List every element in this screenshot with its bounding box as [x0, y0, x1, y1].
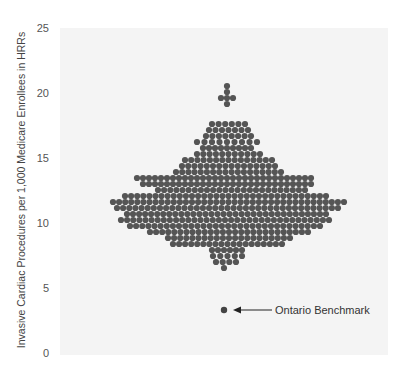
data-point	[116, 199, 122, 205]
data-point	[213, 151, 219, 157]
data-point	[248, 145, 254, 151]
data-point	[185, 169, 191, 175]
data-point	[232, 211, 238, 217]
data-point	[238, 127, 244, 133]
data-point	[220, 259, 226, 265]
data-point	[183, 235, 189, 241]
data-point	[317, 193, 323, 199]
data-point	[204, 163, 210, 169]
data-point	[253, 169, 259, 175]
data-point	[130, 217, 136, 223]
data-point	[216, 133, 222, 139]
data-point	[201, 193, 207, 199]
data-point	[158, 193, 164, 199]
data-point	[213, 223, 219, 229]
data-point	[225, 193, 231, 199]
data-point	[274, 223, 280, 229]
data-point	[305, 193, 311, 199]
data-point	[179, 187, 185, 193]
data-point	[286, 223, 292, 229]
data-point	[272, 169, 278, 175]
data-point	[247, 187, 253, 193]
data-point	[242, 181, 248, 187]
data-point	[157, 205, 163, 211]
data-point	[232, 229, 238, 235]
data-point	[216, 139, 222, 145]
data-point	[302, 175, 308, 181]
data-point	[278, 175, 284, 181]
data-point	[140, 175, 146, 181]
data-point	[335, 205, 341, 211]
data-point	[210, 187, 216, 193]
data-point	[189, 199, 195, 205]
data-point	[184, 211, 190, 217]
data-point	[240, 217, 246, 223]
data-point	[269, 235, 275, 241]
data-point	[278, 169, 284, 175]
data-point	[164, 175, 170, 181]
data-point	[238, 157, 244, 163]
data-point	[274, 205, 280, 211]
data-point	[233, 247, 239, 253]
data-point	[273, 241, 279, 247]
data-point	[238, 193, 244, 199]
data-point	[256, 193, 262, 199]
data-point	[259, 187, 265, 193]
data-point	[164, 223, 170, 229]
data-point	[263, 235, 269, 241]
data-point	[236, 145, 242, 151]
data-point	[249, 241, 255, 247]
data-point	[281, 211, 287, 217]
data-point	[253, 217, 259, 223]
data-point	[253, 187, 259, 193]
data-point	[304, 205, 310, 211]
data-point	[323, 193, 329, 199]
data-point	[229, 163, 235, 169]
data-point	[255, 205, 261, 211]
data-point	[219, 193, 225, 199]
data-point	[225, 157, 231, 163]
data-point	[250, 193, 256, 199]
data-point	[224, 101, 230, 107]
data-point	[305, 223, 311, 229]
data-point	[155, 217, 161, 223]
data-point	[185, 163, 191, 169]
data-point	[134, 175, 140, 181]
data-point	[189, 193, 195, 199]
data-point	[212, 145, 218, 151]
data-point	[120, 205, 126, 211]
data-point	[225, 127, 231, 133]
data-point	[196, 211, 202, 217]
data-point	[201, 199, 207, 205]
data-point	[224, 95, 230, 101]
data-point	[262, 199, 268, 205]
data-point	[186, 187, 192, 193]
data-point	[295, 217, 301, 223]
data-point	[194, 241, 200, 247]
data-point	[224, 89, 230, 95]
data-point	[287, 211, 293, 217]
data-point	[253, 163, 259, 169]
data-point	[244, 229, 250, 235]
data-point	[182, 157, 188, 163]
data-point	[230, 95, 236, 101]
data-point	[146, 181, 152, 187]
data-point	[250, 235, 256, 241]
data-point	[185, 217, 191, 223]
data-point	[134, 193, 140, 199]
data-point	[261, 205, 267, 211]
data-point	[293, 211, 299, 217]
benchmark-dot	[221, 307, 227, 313]
data-point	[266, 169, 272, 175]
beeswarm-chart: 0 5 10 15 20 25 Invasive Cardiac Procedu…	[0, 0, 410, 380]
data-point	[159, 199, 165, 205]
data-point	[284, 187, 290, 193]
data-point	[241, 187, 247, 193]
y-tick-0: 0	[43, 347, 49, 359]
data-point	[317, 211, 323, 217]
data-point	[158, 181, 164, 187]
data-point	[232, 157, 238, 163]
data-point	[216, 169, 222, 175]
data-point	[262, 193, 268, 199]
data-point	[254, 139, 260, 145]
